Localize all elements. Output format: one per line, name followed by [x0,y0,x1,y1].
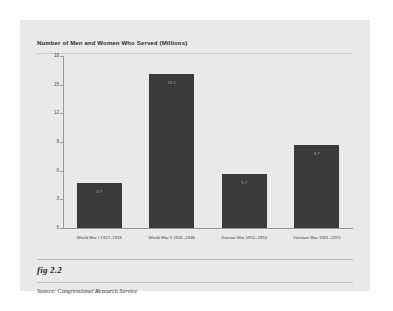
y-axis-tick-label: 9 [37,138,59,146]
x-axis-line [63,228,353,229]
chart-plot-area: 0369121518 4.716.15.78.7 World War I 191… [37,53,353,238]
bar: 16.1 [149,74,194,228]
figure-card: Number of Men and Women Who Served (Mill… [20,20,370,291]
y-axis-tick-mark [60,56,63,57]
x-axis-category-label: World War II 1941–1946 [136,234,209,241]
y-axis-tick-mark [60,142,63,143]
y-axis-tick-label: 3 [37,195,59,203]
bar-value-label: 5.7 [222,180,267,186]
bar: 5.7 [222,174,267,228]
caption-rule-bottom [37,282,353,283]
y-axis-tick-mark [60,171,63,172]
x-axis-category-label: Korean War 1950–1953 [208,234,281,241]
y-axis-tick-label: 12 [37,109,59,117]
y-axis-tick-mark [60,199,63,200]
bar-value-label: 4.7 [77,189,122,195]
y-axis-tick-mark [60,113,63,114]
x-axis-category-label: Vietnam War 1961–1975 [281,234,354,241]
y-axis-tick-mark [60,228,63,229]
y-axis-tick-label: 0 [37,224,59,232]
y-axis-tick-label: 6 [37,167,59,175]
y-axis-line [63,56,64,228]
y-axis-tick-label: 18 [37,52,59,60]
bar: 4.7 [77,183,122,228]
y-axis-tick-label: 15 [37,81,59,89]
bar-value-label: 8.7 [294,151,339,157]
x-axis-category-label: World War I 1917–1918 [63,234,136,241]
figure-caption: fig 2.2 [37,265,62,275]
chart-top-rule [37,53,353,54]
caption-rule-top [37,259,353,260]
y-axis-tick-mark [60,85,63,86]
chart-title: Number of Men and Women Who Served (Mill… [37,40,187,46]
bar: 8.7 [294,145,339,228]
bar-value-label: 16.1 [149,80,194,86]
figure-source: Source: Congressional Research Service [37,287,138,294]
